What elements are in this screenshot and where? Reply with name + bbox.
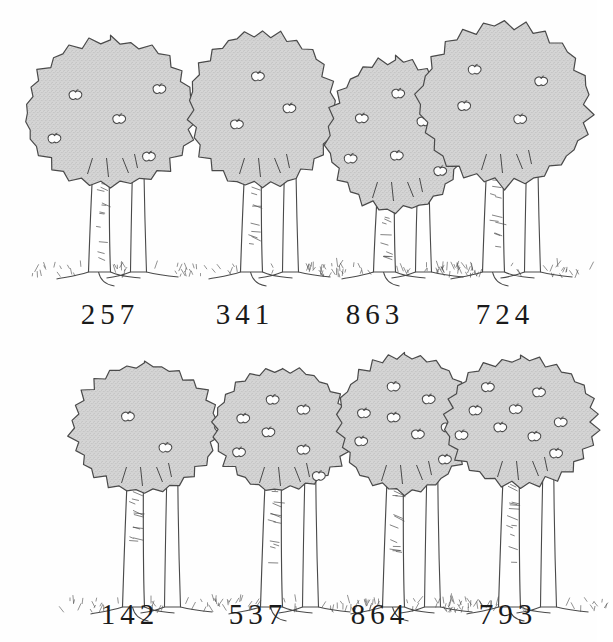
apple-icon [535, 76, 548, 86]
apple-icon [355, 113, 368, 123]
apple-icon [143, 151, 156, 161]
tree-number-label: 793 [448, 598, 568, 631]
apple-icon [533, 387, 546, 397]
apple-icon [387, 381, 400, 391]
apple-icon [481, 382, 494, 392]
apple-icon [390, 150, 403, 160]
apple-icon [468, 64, 481, 74]
apple-icon [297, 444, 310, 454]
apple-icon [297, 404, 310, 414]
apple-icon [237, 413, 250, 423]
apple-icon [159, 442, 172, 452]
apple-icon [153, 84, 166, 94]
tree-row-top [0, 0, 597, 335]
apple-icon [528, 431, 541, 441]
apple-icon [122, 411, 135, 421]
apple-icon [266, 394, 279, 404]
apple-icon [455, 430, 468, 440]
apple-icon [392, 88, 405, 98]
apple-tree [412, 0, 597, 300]
tree-number-label: 537 [198, 598, 318, 631]
apple-icon [69, 90, 82, 100]
tree-number-label: 863 [315, 298, 435, 331]
apple-icon [494, 422, 507, 432]
apple-icon [233, 447, 246, 457]
tree-number-label: 257 [50, 298, 170, 331]
tree-number-label: 341 [185, 298, 305, 331]
apple-icon [554, 417, 567, 427]
tree-crown [444, 355, 601, 489]
apple-icon [252, 71, 265, 81]
apple-icon [262, 427, 275, 437]
apple-tree [428, 335, 613, 635]
apple-icon [550, 448, 563, 458]
apple-icon [344, 153, 357, 163]
tree-number-label: 864 [320, 598, 440, 631]
grass [425, 258, 594, 278]
apple-icon [355, 436, 368, 446]
tree-number-label: 142 [70, 598, 190, 631]
tree-crown [415, 21, 594, 190]
apple-icon [458, 101, 471, 111]
apple-icon [358, 408, 371, 418]
tree-number-label: 724 [445, 298, 565, 331]
apple-icon [412, 429, 425, 439]
apple-icon [509, 404, 522, 414]
apple-icon [283, 103, 296, 113]
tree-row-bottom [0, 335, 597, 642]
apple-icon [469, 405, 482, 415]
apple-icon [231, 119, 244, 129]
apple-icon [387, 412, 400, 422]
apple-icon [48, 133, 61, 143]
apple-icon [113, 114, 126, 124]
apple-icon [514, 114, 527, 124]
